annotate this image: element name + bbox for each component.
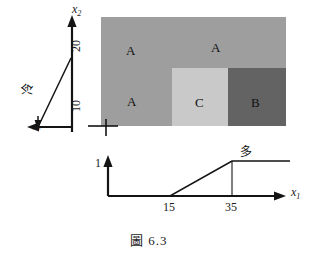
mf-x-axis-arrowhead [274,191,286,200]
mf-tick-15: 15 [163,201,175,213]
x2-tick-20: 20 [70,40,82,52]
cold-term-label: 冷 [22,83,34,95]
figure-6-3: x2 20 10 1 冷 A A A C B 1 多 15 35 x1 圖 6.… [0,0,318,259]
figure-vector-canvas [0,0,318,259]
x1-axis-label-subscript: 1 [296,192,300,201]
x2-axis-label-subscript: 2 [77,9,81,18]
membership-plot-group [103,155,290,201]
membership-ramp-curve [108,161,290,196]
x2-axis-label: x2 [72,3,81,18]
cold-axis-tick-1: 1 [30,125,42,131]
x2-tick-10: 10 [70,100,82,112]
rule-surface-group [27,15,286,136]
x1-axis-label: x1 [291,186,300,201]
figure-caption-number: 6.3 [148,233,167,248]
region-label-b: B [251,96,260,109]
mf-y-axis-arrowhead [103,155,112,167]
mf-tick-35: 35 [225,201,237,213]
figure-caption-symbol: 圖 [130,233,144,248]
cold-triangle-hypotenuse [38,58,71,127]
region-label-c: C [195,96,204,109]
many-term-label: 多 [240,146,252,158]
region-label-a-bottom-left: A [127,95,136,108]
mf-y-label-1: 1 [95,157,101,169]
figure-caption: 圖 6.3 [130,234,168,247]
region-label-a-top-right: A [211,41,220,54]
region-label-a-top-left: A [126,44,135,57]
